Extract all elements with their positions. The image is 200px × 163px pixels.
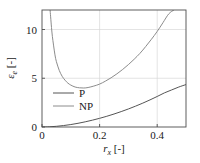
x-axis-label: rx [-] — [103, 142, 125, 157]
y-tick-label: 0 — [32, 121, 38, 133]
legend-label-np: NP — [79, 100, 93, 112]
y-tick-label: 5 — [32, 72, 38, 84]
x-tick-label: 0 — [39, 129, 45, 141]
y-tick-label: 10 — [26, 24, 38, 36]
x-tick-label: 0.4 — [150, 129, 164, 141]
plot-area-background — [42, 10, 186, 127]
y-axis-label: εe [-] — [4, 57, 19, 79]
x-axis-label-units: [-] — [114, 142, 125, 154]
legend-label-p: P — [79, 87, 85, 99]
chart-canvas: 00.20.4 0510 rx [-] εe [-] PNP — [0, 0, 200, 163]
x-tick-label: 0.2 — [93, 129, 107, 141]
chart-figure: 00.20.4 0510 rx [-] εe [-] PNP — [0, 0, 200, 163]
y-axis-label-units: [-] — [4, 57, 16, 68]
